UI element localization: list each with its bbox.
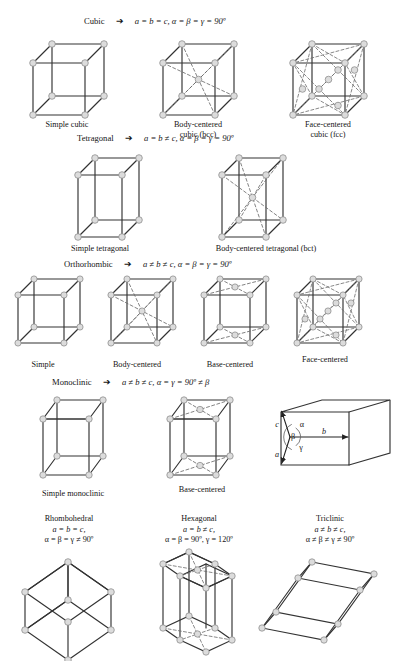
system-relation-triclinic-2: α ≠ β ≠ γ ≠ 90º bbox=[306, 535, 355, 544]
cell-simple-tetragonal bbox=[78, 158, 139, 237]
system-relation-tetragonal: a = b ≠ c, α = β = γ = 90º bbox=[144, 133, 234, 143]
system-heading-orthorhombic: Orthorhombic ➔ a ≠ b ≠ c, α = β = γ = 90… bbox=[64, 259, 231, 270]
system-name-rhombohedral: Rhombohedral bbox=[45, 514, 94, 523]
cell-label-face-centered-cubic: Face-centered cubic (fcc) bbox=[275, 120, 381, 140]
system-name-orthorhombic: Orthorhombic bbox=[64, 259, 113, 269]
system-relation-hexagonal-1: a = b ≠ c, bbox=[183, 525, 215, 534]
lattice-drawings bbox=[0, 0, 398, 661]
arrow-icon: ➔ bbox=[103, 377, 111, 387]
system-relation-monoclinic: a ≠ b ≠ c, α = γ = 90º ≠ β bbox=[122, 377, 209, 387]
nodes-hexagonal bbox=[160, 549, 235, 655]
cell-label-orthorhombic-base-centered: Base-centered bbox=[190, 360, 270, 370]
system-relation-triclinic-1: a ≠ b ≠ c, bbox=[314, 525, 345, 534]
system-relation-rhombohedral-1: a = b = c, bbox=[52, 525, 85, 534]
system-relation-hexagonal-2: α = β = 90º, γ = 120º bbox=[165, 535, 233, 544]
system-relation-orthorhombic: a ≠ b ≠ c, α = β = γ = 90º bbox=[143, 259, 231, 269]
cell-label-orthorhombic-body-centered: Body-centered bbox=[97, 360, 177, 370]
cell-orthorhombic-simple bbox=[18, 279, 80, 343]
arrow-icon: ➔ bbox=[124, 259, 132, 269]
cell-rhombohedral bbox=[25, 562, 111, 660]
angle-label-gamma: γ bbox=[296, 443, 306, 453]
system-block-rhombohedral: Rhombohedral a = b = c, α = β = γ ≠ 90º bbox=[8, 514, 130, 546]
system-heading-monoclinic: Monoclinic ➔ a ≠ b ≠ c, α = γ = 90º ≠ β bbox=[52, 377, 209, 388]
cell-triclinic bbox=[262, 562, 374, 640]
axis-label-c: c bbox=[272, 420, 282, 430]
angle-label-beta: β bbox=[288, 432, 298, 442]
system-relation-rhombohedral-2: α = β = γ ≠ 90º bbox=[45, 535, 94, 544]
system-block-hexagonal: Hexagonal a = b ≠ c, α = β = 90º, γ = 12… bbox=[135, 514, 263, 546]
cell-label-simple-monoclinic: Simple monoclinic bbox=[18, 489, 128, 499]
arrow-icon: ➔ bbox=[125, 133, 133, 143]
cell-label-simple-cubic: Simple cubic bbox=[14, 120, 120, 130]
angle-label-alpha: α bbox=[297, 420, 307, 430]
cell-label-orthorhombic-face-centered: Face-centered bbox=[285, 355, 365, 365]
cell-label-body-centered-tetragonal: Body-centered tetragonal (bct) bbox=[176, 244, 356, 254]
bravais-lattice-figure: Cubic ➔ a = b = c, α = β = γ = 90º bbox=[0, 0, 398, 661]
cell-label-simple-tetragonal: Simple tetragonal bbox=[52, 244, 148, 254]
cell-label-base-centered-monoclinic: Base-centered bbox=[152, 485, 252, 495]
cell-simple-monoclinic bbox=[43, 400, 103, 475]
axis-label-a: a bbox=[272, 450, 282, 460]
system-name-monoclinic: Monoclinic bbox=[52, 377, 92, 387]
axis-label-b: b bbox=[319, 427, 329, 437]
system-name-tetragonal: Tetragonal bbox=[77, 133, 114, 143]
cell-simple-cubic bbox=[33, 44, 104, 115]
system-heading-tetragonal: Tetragonal ➔ a = b ≠ c, α = β = γ = 90º bbox=[77, 133, 233, 144]
system-name-hexagonal: Hexagonal bbox=[181, 514, 216, 523]
system-block-triclinic: Triclinic a ≠ b ≠ c, α ≠ β ≠ γ ≠ 90º bbox=[268, 514, 392, 546]
system-name-triclinic: Triclinic bbox=[316, 514, 344, 523]
cell-label-orthorhombic-simple: Simple bbox=[8, 360, 78, 370]
